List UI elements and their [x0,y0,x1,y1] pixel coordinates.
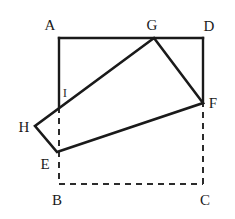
geometry-canvas [0,0,235,219]
vertex-label-A: A [45,18,56,33]
vertex-label-F: F [209,96,217,111]
vertex-label-C: C [200,193,210,208]
vertex-label-B: B [52,193,62,208]
vertex-label-D: D [204,19,215,34]
vertex-label-G: G [147,18,158,33]
geometry-figure: A B C D E F G H I [0,0,235,219]
vertex-label-H: H [19,120,30,135]
vertex-label-I: I [63,86,67,99]
vertex-label-E: E [40,157,49,172]
